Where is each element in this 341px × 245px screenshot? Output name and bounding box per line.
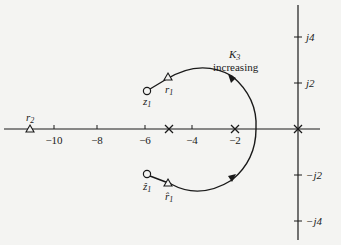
label-r2: r2 xyxy=(26,111,34,125)
label-r1-hat: r̂1 xyxy=(165,190,173,204)
gain-label: K3 xyxy=(228,48,240,62)
label-r1: r1 xyxy=(165,83,173,97)
tick-label-neg-j2: −j2 xyxy=(306,169,322,181)
label-z1-hat: ẑ1 xyxy=(142,180,151,194)
label-z1: z1 xyxy=(142,95,151,109)
zero-circle-icon xyxy=(143,87,150,94)
zero-circle-icon xyxy=(143,170,150,177)
tick-label-neg10: −10 xyxy=(45,134,63,146)
tick-label-neg4: −4 xyxy=(186,134,198,146)
real-axis-tick-labels: −10 −8 −6 −4 −2 xyxy=(45,134,240,146)
gain-direction-label: increasing xyxy=(213,61,259,73)
tick-label-j2: j2 xyxy=(304,77,315,89)
tick-label-j4: j4 xyxy=(304,31,315,43)
tick-label-neg2: −2 xyxy=(229,134,241,146)
tick-label-neg8: −8 xyxy=(91,134,103,146)
tick-label-neg6: −6 xyxy=(139,134,151,146)
tick-label-neg-j4: −j4 xyxy=(306,215,322,227)
root-locus-diagram: −10 −8 −6 −4 −2 j4 j2 −j2 −j4 xyxy=(0,0,341,245)
